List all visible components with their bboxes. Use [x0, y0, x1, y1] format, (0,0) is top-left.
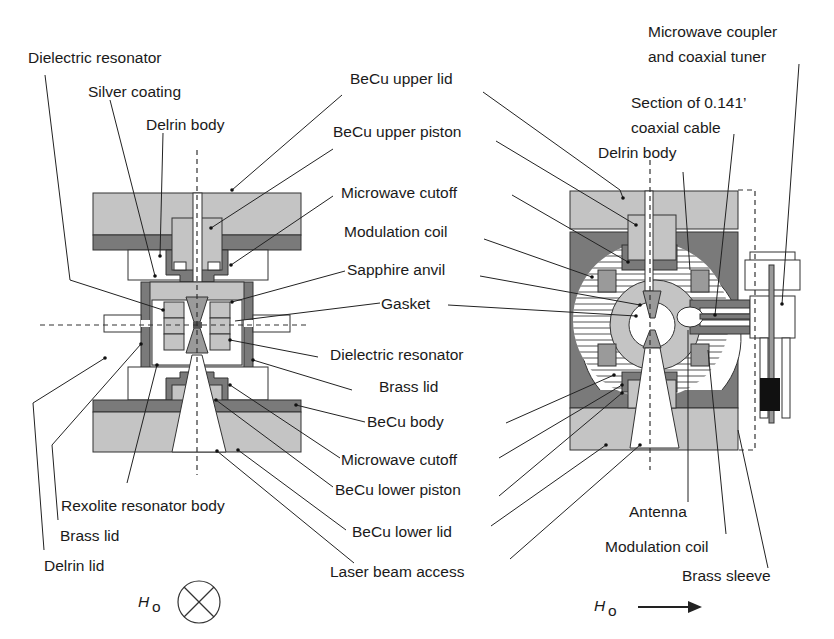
coil-block-tr	[691, 270, 709, 292]
label-brass-sleeve: Brass sleeve	[682, 567, 771, 584]
label-microwave-cutoff-top: Microwave cutoff	[341, 184, 458, 201]
label-becu-lower-piston: BeCu lower piston	[335, 481, 461, 498]
label-coax-section-1: Section of 0.141’	[631, 94, 746, 111]
label-delrin-body-right: Delrin body	[598, 144, 677, 161]
field-subscript-right: o	[608, 602, 617, 619]
upper-bore-r	[645, 191, 653, 291]
label-rexolite-resonator-body: Rexolite resonator body	[61, 497, 225, 514]
label-brass-lid-left: Brass lid	[60, 527, 119, 544]
label-coax-section-2: coaxial cable	[631, 119, 721, 136]
label-brass-lid-mid: Brass lid	[379, 378, 438, 395]
resonator-r1	[210, 302, 230, 318]
label-becu-upper-lid: BeCu upper lid	[350, 70, 453, 87]
coil-block-bl	[598, 344, 616, 366]
tuner-right-rail	[782, 338, 790, 418]
resonator-l1	[164, 302, 184, 318]
field-into-page-symbol: H o	[138, 581, 220, 623]
label-sapphire-anvil: Sapphire anvil	[347, 261, 445, 278]
field-label-left: H	[138, 593, 150, 610]
tuner-plunger	[760, 378, 780, 411]
coax-gap-top	[700, 308, 750, 314]
label-microwave-cutoff-bottom: Microwave cutoff	[341, 451, 458, 468]
label-modulation-coil-bottom: Modulation coil	[605, 538, 708, 555]
antenna-loop	[677, 307, 703, 327]
label-silver-coating: Silver coating	[88, 83, 181, 100]
label-laser-beam-access: Laser beam access	[330, 563, 465, 580]
field-right-arrow-symbol: H o	[594, 597, 702, 619]
wall-hole-left	[141, 320, 150, 327]
label-becu-lower-lid: BeCu lower lid	[352, 523, 452, 540]
coil-block-br	[691, 344, 709, 366]
label-delrin-body-left: Delrin body	[146, 116, 225, 133]
delrin-lid-left	[104, 315, 141, 332]
arrow-head-icon	[688, 601, 702, 613]
label-gasket: Gasket	[381, 295, 431, 312]
label-antenna: Antenna	[629, 503, 687, 520]
coax-gap-bottom	[700, 320, 750, 326]
resonator-l2	[164, 318, 184, 334]
delrin-lid-right	[253, 315, 290, 332]
coil-block-tl	[598, 270, 616, 292]
label-microwave-coupler-2: and coaxial tuner	[648, 48, 766, 65]
diagram-canvas: Dielectric resonator Silver coating Delr…	[0, 0, 834, 639]
label-modulation-coil-top: Modulation coil	[344, 223, 447, 240]
label-becu-body: BeCu body	[367, 413, 444, 430]
resonator-l3	[164, 334, 184, 350]
resonator-r2	[210, 318, 230, 334]
label-microwave-coupler-1: Microwave coupler	[648, 23, 777, 40]
label-becu-upper-piston: BeCu upper piston	[333, 123, 461, 140]
resonator-r3	[210, 334, 230, 350]
field-label-right: H	[594, 597, 606, 614]
piston-gap-right	[208, 262, 220, 270]
field-subscript-left: o	[152, 598, 161, 615]
left-cell-assembly	[40, 150, 310, 475]
piston-gap-left	[174, 262, 186, 270]
label-dielectric-resonator-top: Dielectric resonator	[28, 49, 162, 66]
label-dielectric-resonator-mid: Dielectric resonator	[330, 346, 464, 363]
label-delrin-lid: Delrin lid	[44, 557, 104, 574]
wall-hole-right	[244, 320, 253, 327]
